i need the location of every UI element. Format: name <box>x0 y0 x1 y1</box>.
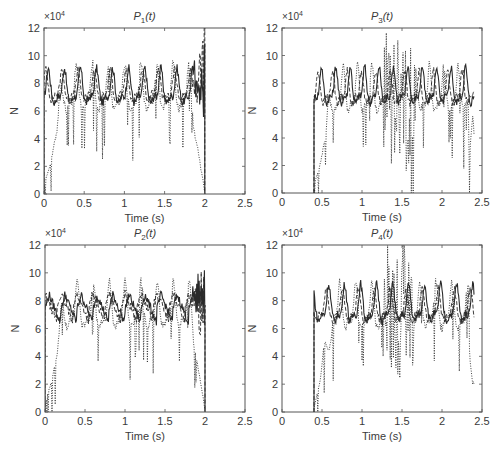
x-tick-label: 1.5 <box>157 197 172 209</box>
y-tick-label: 6 <box>272 323 278 335</box>
plot-area <box>44 25 205 194</box>
x-tick-label: 0 <box>42 415 48 427</box>
plot-area <box>314 242 474 412</box>
subplot-title: P3(t) <box>371 10 394 25</box>
y-tick-label: 0 <box>272 187 278 199</box>
axes-box <box>45 245 245 412</box>
subplot-p4: 00.511.522.5024681012×104P4(t)Time (s)N <box>246 227 490 442</box>
series-dotted <box>314 33 474 193</box>
y-multiplier: ×104 <box>282 227 303 239</box>
x-axis-label: Time (s) <box>362 430 402 442</box>
plot-area <box>45 270 205 412</box>
subplot-title: P4(t) <box>371 227 394 242</box>
y-tick-label: 8 <box>272 295 278 307</box>
y-tick-label: 0 <box>34 188 40 200</box>
y-tick-label: 4 <box>35 350 41 362</box>
x-tick-label: 1 <box>359 415 365 427</box>
y-axis-label: N <box>9 324 21 332</box>
x-tick-label: 1 <box>122 415 128 427</box>
y-tick-label: 2 <box>272 160 278 172</box>
y-tick-label: 2 <box>34 160 40 172</box>
y-tick-label: 0 <box>272 406 278 418</box>
y-tick-label: 6 <box>35 323 41 335</box>
x-tick-label: 2.5 <box>474 415 489 427</box>
x-tick-label: 2.5 <box>237 415 252 427</box>
subplot-p1: 00.511.522.5024681012×104P1(t)Time (s)N <box>8 10 253 224</box>
y-tick-label: 8 <box>35 295 41 307</box>
subplot-p3: 00.511.522.5024681012×104P3(t)Time (s)N <box>246 10 490 223</box>
x-tick-label: 1 <box>359 196 365 208</box>
y-multiplier: ×104 <box>282 10 303 22</box>
x-tick-label: 2 <box>439 415 445 427</box>
plot-area <box>314 33 474 193</box>
y-tick-label: 2 <box>272 378 278 390</box>
y-tick-label: 0 <box>35 406 41 418</box>
y-tick-label: 10 <box>266 267 278 279</box>
y-multiplier: ×104 <box>44 10 65 22</box>
x-tick-label: 1 <box>121 197 127 209</box>
x-tick-label: 0 <box>279 415 285 427</box>
x-tick-label: 2.5 <box>237 197 252 209</box>
x-axis-label: Time (s) <box>125 212 165 224</box>
series-solid <box>44 44 205 194</box>
subplot-p2: 00.511.522.5024681012×104P2(t)Time (s)N <box>9 227 253 442</box>
y-tick-label: 12 <box>29 239 41 251</box>
y-multiplier: ×104 <box>45 227 66 239</box>
y-axis-label: N <box>8 107 20 115</box>
y-tick-label: 12 <box>266 22 278 34</box>
x-tick-label: 0 <box>41 197 47 209</box>
x-tick-label: 2 <box>439 196 445 208</box>
x-tick-label: 1.5 <box>157 415 172 427</box>
figure: 00.511.522.5024681012×104P1(t)Time (s)N … <box>0 0 500 452</box>
x-tick-label: 1.5 <box>394 415 409 427</box>
y-tick-label: 8 <box>34 77 40 89</box>
y-tick-label: 10 <box>28 50 40 62</box>
x-tick-label: 0.5 <box>77 197 92 209</box>
y-tick-label: 6 <box>34 105 40 117</box>
x-tick-label: 0.5 <box>314 196 329 208</box>
x-tick-label: 1.5 <box>394 196 409 208</box>
subplot-title: P1(t) <box>133 10 156 25</box>
x-tick-label: 2.5 <box>474 196 489 208</box>
x-tick-label: 2 <box>202 197 208 209</box>
y-tick-label: 10 <box>29 267 41 279</box>
y-tick-label: 6 <box>272 105 278 117</box>
y-axis-label: N <box>246 106 258 114</box>
x-tick-label: 0 <box>279 196 285 208</box>
y-tick-label: 2 <box>35 378 41 390</box>
x-tick-label: 2 <box>202 415 208 427</box>
y-tick-label: 8 <box>272 77 278 89</box>
y-axis-label: N <box>246 324 258 332</box>
series-dotted <box>45 278 205 412</box>
series-dashed <box>45 272 205 412</box>
y-tick-label: 10 <box>266 50 278 62</box>
x-tick-label: 0.5 <box>314 415 329 427</box>
y-tick-label: 12 <box>266 239 278 251</box>
y-tick-label: 4 <box>272 350 278 362</box>
subplot-title: P2(t) <box>134 227 157 242</box>
y-tick-label: 4 <box>272 132 278 144</box>
x-tick-label: 0.5 <box>77 415 92 427</box>
x-axis-label: Time (s) <box>125 430 165 442</box>
y-tick-label: 12 <box>28 22 40 34</box>
x-axis-label: Time (s) <box>362 211 402 223</box>
y-tick-label: 4 <box>34 133 40 145</box>
series-dotted <box>314 242 474 412</box>
